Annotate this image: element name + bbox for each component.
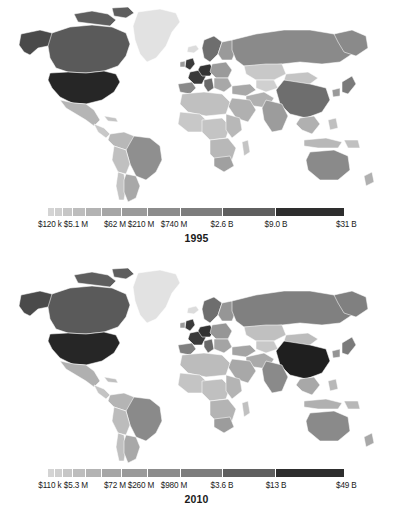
country-central-america <box>94 124 110 138</box>
legend-segment-3 <box>63 208 72 216</box>
legend-segment-2 <box>55 208 62 216</box>
country-korea <box>332 88 340 97</box>
legend-segment-4 <box>73 208 85 216</box>
country-spain-portugal <box>178 82 196 94</box>
legend-tick-label: $31 B <box>336 219 357 230</box>
legend-tick-label: $3.6 B <box>211 480 234 491</box>
world-map-svg-1995 <box>0 0 393 206</box>
legend-segment-2 <box>55 469 62 477</box>
country-ireland <box>180 322 185 328</box>
legend-segment-9 <box>181 208 222 216</box>
country-united-kingdom <box>185 319 195 331</box>
legend-tick-label: $210 M <box>128 219 154 230</box>
country-canada-arctic <box>74 11 116 26</box>
country-new-zealand <box>364 172 374 186</box>
legend-segment-9 <box>181 469 222 477</box>
legend-segment-5 <box>86 208 101 216</box>
legend-tick-label: $120 k <box>38 219 62 230</box>
country-united-states <box>48 332 120 365</box>
country-japan <box>342 76 356 94</box>
legend-segment-1 <box>48 469 54 477</box>
country-north-africa <box>180 92 230 116</box>
country-scandinavia <box>202 297 222 323</box>
country-kazakhstan <box>244 325 286 341</box>
country-united-kingdom <box>185 58 195 70</box>
country-italy <box>204 339 214 353</box>
country-scandinavia <box>202 36 222 62</box>
country-madagascar <box>242 401 250 417</box>
legend-tick-label: $2.6 B <box>211 219 234 230</box>
world-map-2010[interactable] <box>0 261 393 467</box>
country-mexico <box>60 361 100 387</box>
country-png <box>344 401 360 409</box>
country-argentina <box>124 435 140 463</box>
country-southeast-asia <box>296 377 320 395</box>
legend-tick-label: $740 M <box>161 219 187 230</box>
legend-tick-label: $49 B <box>336 480 357 491</box>
country-south-africa <box>214 156 234 172</box>
world-map-svg-2010 <box>0 261 393 467</box>
country-united-states <box>48 71 120 104</box>
country-new-zealand <box>364 433 374 447</box>
country-greenland <box>133 270 180 323</box>
country-japan <box>342 337 356 355</box>
country-canada-arctic-2 <box>112 268 134 279</box>
country-iceland <box>187 45 199 53</box>
country-cuba <box>104 116 118 122</box>
legend-segment-7 <box>122 208 147 216</box>
country-australia <box>306 411 350 441</box>
legend-segment-11 <box>276 469 344 477</box>
legend-segment-10 <box>223 469 276 477</box>
country-argentina <box>124 174 140 202</box>
country-south-africa <box>214 417 234 433</box>
country-balkans <box>214 339 232 353</box>
map-panel-1995: $120 k$5.1 M$62 M$210 M$740 M$2.6 B$9.0 … <box>0 0 393 261</box>
legend-tick-label: $980 M <box>161 480 187 491</box>
country-east-africa <box>226 114 242 138</box>
world-map-1995[interactable] <box>0 0 393 206</box>
map-comparison-figure: $120 k$5.1 M$62 M$210 M$740 M$2.6 B$9.0 … <box>0 0 393 522</box>
country-central-america <box>94 385 110 399</box>
country-central-asia <box>256 341 278 353</box>
country-greenland <box>133 9 180 62</box>
legend-segment-6 <box>102 469 121 477</box>
country-korea <box>332 349 340 358</box>
legend-tick-label: $72 M <box>104 480 126 491</box>
country-turkey <box>232 84 256 96</box>
country-poland-east-europe <box>210 62 232 78</box>
legend-segment-1 <box>48 208 54 216</box>
legend-segment-8 <box>148 469 180 477</box>
legend-tick-label: $260 M <box>128 480 154 491</box>
panel-year-label-1995: 1995 <box>0 232 393 244</box>
country-philippines <box>328 379 338 391</box>
map-panel-2010: $110 k$5.3 M$72 M$260 M$980 M$3.6 B$13 B… <box>0 261 393 522</box>
country-indonesia <box>304 399 342 409</box>
country-mexico <box>60 100 100 126</box>
legend-segment-3 <box>63 469 72 477</box>
country-russia <box>232 30 352 66</box>
legend-1995: $120 k$5.1 M$62 M$210 M$740 M$2.6 B$9.0 … <box>0 206 393 261</box>
country-iceland <box>187 306 199 314</box>
country-poland-east-europe <box>210 323 232 339</box>
country-png <box>344 140 360 148</box>
legend-segment-4 <box>73 469 85 477</box>
country-australia <box>306 150 350 180</box>
country-italy <box>204 78 214 92</box>
country-cuba <box>104 377 118 383</box>
country-indonesia <box>304 138 342 148</box>
country-canada-arctic <box>74 272 116 287</box>
legend-tick-labels-2010: $110 k$5.3 M$72 M$260 M$980 M$3.6 B$13 B… <box>0 480 393 494</box>
country-brazil <box>126 397 162 441</box>
country-balkans <box>214 78 232 92</box>
country-madagascar <box>242 140 250 156</box>
legend-segment-6 <box>102 208 121 216</box>
legend-tick-label: $9.0 B <box>265 219 288 230</box>
country-canada <box>48 286 130 334</box>
country-north-africa <box>180 353 230 377</box>
country-kazakhstan <box>244 64 286 80</box>
legend-segment-11 <box>276 208 344 216</box>
country-ireland <box>180 61 185 67</box>
country-russia <box>232 291 352 327</box>
legend-tick-labels-1995: $120 k$5.1 M$62 M$210 M$740 M$2.6 B$9.0 … <box>0 219 393 233</box>
legend-tick-label: $5.1 M <box>64 219 88 230</box>
